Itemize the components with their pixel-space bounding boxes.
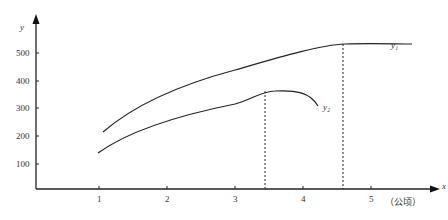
y-axis-arrow-icon bbox=[33, 14, 40, 24]
x-tick-label: 4 bbox=[301, 194, 306, 204]
y-tick-label: 200 bbox=[16, 131, 30, 141]
series-y2-line bbox=[98, 91, 318, 153]
y-tick-label: 100 bbox=[16, 159, 30, 169]
y-axis-label: y bbox=[19, 22, 24, 32]
x-tick-label: 3 bbox=[233, 194, 238, 204]
x-axis-arrow-icon bbox=[430, 186, 440, 193]
x-axis-unit: （公顷） bbox=[385, 197, 421, 207]
x-axis-label: x bbox=[441, 181, 446, 191]
series-y1-label: y₁ bbox=[390, 40, 398, 50]
series-y2-label: y₂ bbox=[322, 102, 330, 112]
series-y1-line bbox=[103, 44, 412, 132]
y-tick-label: 300 bbox=[16, 103, 30, 113]
chart: y x （公顷） 500 400 300 200 100 1 2 3 4 5 y… bbox=[0, 0, 448, 220]
y-tick-label: 500 bbox=[16, 48, 30, 58]
x-tick-label: 2 bbox=[165, 194, 170, 204]
x-tick-label: 5 bbox=[369, 194, 374, 204]
x-tick-label: 1 bbox=[97, 194, 102, 204]
y-tick-label: 400 bbox=[16, 76, 30, 86]
